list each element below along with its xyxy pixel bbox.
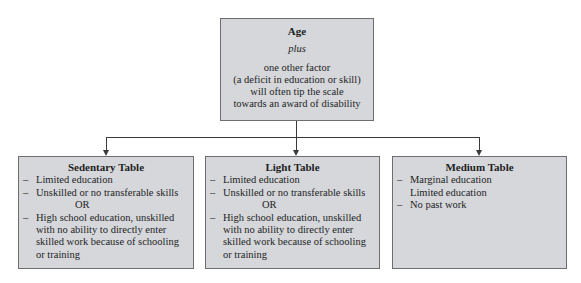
table-title: Sedentary Table	[23, 161, 189, 173]
factor-line: towards an award of disability	[221, 98, 373, 110]
list-item-cont: with no ability to directly enter	[210, 224, 375, 236]
or-label: OR	[23, 199, 189, 211]
list-item-cont: or training	[23, 249, 189, 261]
list-item: –Unskilled or no transferable skills	[23, 187, 189, 199]
light-table-box: Light Table –Limited education –Unskille…	[205, 156, 380, 269]
connector-stem	[296, 121, 297, 137]
connector-right	[479, 137, 480, 150]
list-item-cont: Limited education	[397, 187, 562, 199]
list-item: –Unskilled or no transferable skills	[210, 187, 375, 199]
factor-line: will often tip the scale	[221, 86, 373, 98]
factor-line: (a deficit in education or skill)	[221, 74, 373, 86]
list-item-cont: or training	[210, 249, 375, 261]
age-factor-box: Age plus one other factor (a deficit in …	[220, 18, 374, 121]
medium-table-box: Medium Table –Marginal education Limited…	[392, 156, 567, 269]
list-item-cont: with no ability to directly enter	[23, 224, 189, 236]
table-title: Medium Table	[397, 161, 562, 173]
list-item: –Limited education	[23, 174, 189, 186]
age-title: Age	[221, 25, 373, 37]
or-label: OR	[210, 199, 375, 211]
list-item: –High school education, unskilled	[210, 212, 375, 224]
list-item-cont: skilled work because of schooling	[23, 236, 189, 248]
list-item: –Marginal education	[397, 174, 562, 186]
list-item: –High school education, unskilled	[23, 212, 189, 224]
list-item: –No past work	[397, 199, 562, 211]
sedentary-table-box: Sedentary Table –Limited education –Unsk…	[18, 156, 194, 269]
factor-line: one other factor	[221, 62, 373, 74]
connector-horizontal	[106, 137, 480, 138]
list-item-cont: skilled work because of schooling	[210, 236, 375, 248]
table-title: Light Table	[210, 161, 375, 173]
connector-left	[106, 137, 107, 150]
list-item: –Limited education	[210, 174, 375, 186]
plus-label: plus	[221, 43, 373, 55]
connector-center	[296, 137, 297, 150]
